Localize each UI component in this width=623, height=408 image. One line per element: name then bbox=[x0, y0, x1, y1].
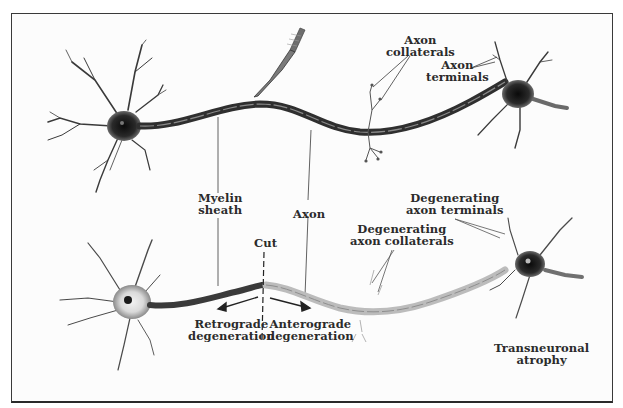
label-axon-collaterals: Axon collaterals bbox=[386, 34, 455, 58]
label-line: degeneration bbox=[267, 330, 354, 342]
top-left-neuron bbox=[48, 40, 166, 192]
degeneration-arrows bbox=[218, 297, 310, 311]
label-cut: Cut bbox=[254, 237, 277, 249]
label-line: degeneration bbox=[188, 330, 275, 342]
proximal-axon-stump bbox=[150, 285, 262, 306]
label-line: sheath bbox=[198, 204, 242, 216]
label-line: axon collaterals bbox=[350, 235, 454, 247]
bottom-left-soma bbox=[113, 285, 151, 319]
label-retrograde-degeneration: Retrograde degeneration bbox=[188, 318, 275, 342]
label-axon-terminals: Axon terminals bbox=[426, 59, 489, 83]
label-line: atrophy bbox=[494, 354, 589, 366]
label-transneuronal-atrophy: Transneuronal atrophy bbox=[494, 342, 589, 366]
label-myelin-sheath: Myelin sheath bbox=[198, 192, 242, 216]
label-degenerating-axon-collaterals: Degenerating axon collaterals bbox=[350, 223, 454, 247]
top-axon bbox=[140, 82, 505, 132]
label-line: terminals bbox=[426, 71, 489, 83]
scalpel-icon bbox=[254, 28, 305, 97]
label-line: axon terminals bbox=[406, 204, 504, 216]
top-left-soma bbox=[107, 111, 141, 141]
bottom-right-soma bbox=[515, 251, 545, 277]
top-axon-collaterals bbox=[366, 85, 380, 160]
degenerating-collaterals bbox=[352, 270, 382, 342]
label-axon: Axon bbox=[293, 208, 325, 220]
label-anterograde-degeneration: Anterograde degeneration bbox=[267, 318, 354, 342]
label-line: collaterals bbox=[386, 46, 455, 58]
label-degenerating-axon-terminals: Degenerating axon terminals bbox=[406, 192, 504, 216]
top-right-soma bbox=[502, 80, 534, 108]
